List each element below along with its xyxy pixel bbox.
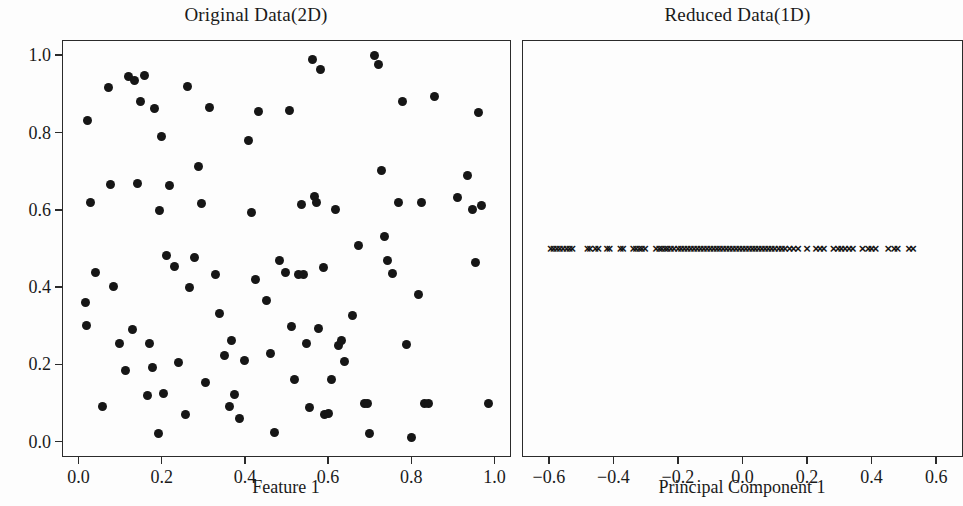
data-point [281, 268, 290, 277]
data-point [377, 166, 386, 175]
y-tick-label: 1.0 [29, 45, 52, 66]
x-tick-mark [742, 457, 744, 464]
y-tick-mark [55, 364, 62, 366]
data-point [106, 180, 115, 189]
data-point [907, 243, 918, 254]
y-tick-label: 0.6 [29, 199, 52, 220]
data-point [287, 322, 296, 331]
data-point [194, 162, 203, 171]
x-tick-mark [411, 457, 413, 464]
x-axis-label-reduced: Principal Component 1 [659, 477, 826, 498]
data-point [567, 243, 578, 254]
data-point [140, 71, 149, 80]
data-point [297, 200, 306, 209]
data-point [143, 391, 152, 400]
data-point [185, 283, 194, 292]
x-tick-label: 0.4 [860, 467, 883, 488]
data-point [474, 108, 483, 117]
data-point [414, 290, 423, 299]
data-point [468, 205, 477, 214]
data-point [133, 179, 142, 188]
data-point [316, 65, 325, 74]
data-point [299, 270, 308, 279]
y-tick-label: 0.8 [29, 122, 52, 143]
data-point [155, 206, 164, 215]
panel-title-reduced: Reduced Data(1D) [512, 4, 963, 26]
data-point [305, 403, 314, 412]
data-point [121, 366, 130, 375]
data-point [354, 241, 363, 250]
x-tick-mark [935, 457, 937, 464]
data-point [157, 132, 166, 141]
data-point [183, 82, 192, 91]
y-tick-label: 0.2 [29, 354, 52, 375]
data-point [302, 339, 311, 348]
x-tick-mark [494, 457, 496, 464]
x-tick-mark [548, 457, 550, 464]
data-point [165, 181, 174, 190]
data-point [240, 356, 249, 365]
data-point [235, 414, 244, 423]
data-point [363, 399, 372, 408]
data-point [262, 296, 271, 305]
data-point [327, 375, 336, 384]
data-point [870, 243, 881, 254]
data-point [254, 107, 263, 116]
x-tick-mark [677, 457, 679, 464]
data-point [365, 429, 374, 438]
data-point [275, 256, 284, 265]
data-point [82, 321, 91, 330]
y-tick-label: 0.0 [29, 431, 52, 452]
x-axis-label-original: Feature 1 [252, 477, 319, 498]
data-point [398, 97, 407, 106]
x-tick-mark [613, 457, 615, 464]
x-tick-label: 0.6 [925, 467, 948, 488]
data-point [402, 340, 411, 349]
data-point [394, 198, 403, 207]
y-tick-mark [55, 54, 62, 56]
scatter-area-reduced [523, 41, 962, 456]
data-point [340, 357, 349, 366]
x-tick-mark [871, 457, 873, 464]
y-tick-mark [55, 132, 62, 134]
data-point [98, 402, 107, 411]
data-point [190, 253, 199, 262]
data-point [892, 243, 903, 254]
x-tick-mark [78, 457, 80, 464]
data-point [266, 349, 275, 358]
data-point [230, 390, 239, 399]
scatter-area-original [63, 41, 510, 456]
y-tick-mark [55, 286, 62, 288]
x-tick-label: 0.0 [67, 467, 90, 488]
data-point [251, 275, 260, 284]
x-tick-label: 0.6 [317, 467, 340, 488]
data-point [319, 263, 328, 272]
data-point [220, 351, 229, 360]
x-tick-mark [806, 457, 808, 464]
data-point [115, 339, 124, 348]
data-point [83, 116, 92, 125]
x-tick-label: −0.6 [532, 467, 565, 488]
data-point [348, 311, 357, 320]
data-point [162, 251, 171, 260]
data-point [383, 256, 392, 265]
data-point [380, 232, 389, 241]
data-point [477, 201, 486, 210]
figure-canvas: Original Data(2D) 0.00.20.40.60.81.0 0.0… [0, 0, 963, 506]
data-point [201, 378, 210, 387]
data-point [91, 268, 100, 277]
data-point [145, 339, 154, 348]
data-point [388, 269, 397, 278]
data-point [86, 198, 95, 207]
data-point [104, 83, 113, 92]
data-point [324, 409, 333, 418]
data-point [407, 433, 416, 442]
data-point [374, 60, 383, 69]
data-point [417, 198, 426, 207]
panel-original-data: Original Data(2D) 0.00.20.40.60.81.0 0.0… [0, 0, 512, 506]
data-point [331, 205, 340, 214]
data-point [463, 171, 472, 180]
data-point [225, 402, 234, 411]
x-tick-label: 0.8 [400, 467, 423, 488]
data-point [285, 106, 294, 115]
